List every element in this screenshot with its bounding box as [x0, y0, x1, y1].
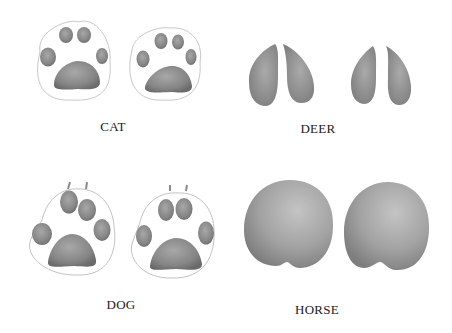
- cat-track-left: [38, 21, 111, 100]
- dog-track-right: [131, 185, 214, 278]
- dog-track-left: [30, 182, 115, 275]
- dog-label: DOG: [106, 297, 135, 313]
- horse-label: HORSE: [295, 302, 339, 318]
- deer-label: DEER: [300, 121, 335, 137]
- deer-track-left: [249, 44, 314, 106]
- deer-track-right: [351, 46, 411, 105]
- animal-tracks-illustration: CAT DEER DOG HORSE: [0, 0, 452, 333]
- horse-track-right: [344, 182, 429, 270]
- horse-track-left: [244, 180, 333, 268]
- cat-track-right: [130, 28, 201, 100]
- tracks-drawing: [0, 0, 452, 333]
- cat-label: CAT: [100, 119, 125, 135]
